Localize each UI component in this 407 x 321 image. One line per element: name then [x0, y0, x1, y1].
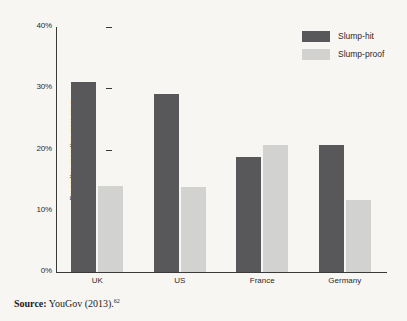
- y-axis-tick-label: 0%: [41, 266, 52, 275]
- y-axis-tick-label: 30%: [37, 82, 52, 91]
- legend-item-slump-hit: Slump-hit: [302, 29, 384, 43]
- x-axis-category-label: France: [221, 276, 304, 285]
- chart-legend: Slump-hit Slump-proof: [302, 29, 384, 65]
- y-axis-tick-label: 40%: [37, 21, 52, 30]
- legend-item-slump-proof: Slump-proof: [302, 47, 384, 61]
- x-axis-category-label: US: [139, 276, 222, 285]
- bar: [154, 94, 179, 272]
- source-footnote: 62: [114, 298, 120, 304]
- source-caption: Source: YouGov (2013).62: [14, 298, 120, 309]
- bar: [71, 82, 96, 272]
- x-axis-category-label: UK: [56, 276, 139, 285]
- bar: [98, 186, 123, 272]
- bar: [319, 145, 344, 272]
- bar-group: France: [221, 27, 304, 272]
- source-prefix: Source:: [14, 298, 47, 309]
- bar: [181, 187, 206, 272]
- y-axis-tick-label: 10%: [37, 205, 52, 214]
- legend-label: Slump-hit: [338, 31, 374, 41]
- legend-label: Slump-proof: [338, 49, 384, 59]
- source-text: YouGov (2013).: [49, 298, 114, 309]
- bar: [346, 200, 371, 272]
- x-axis-category-label: Germany: [304, 276, 387, 285]
- legend-swatch-icon: [302, 49, 330, 60]
- chart-figure: Proportion reporting more rows 0%10%20%3…: [0, 0, 407, 321]
- bar-group: US: [139, 27, 222, 272]
- bar: [263, 145, 288, 272]
- y-axis-tick-mark: [106, 272, 112, 273]
- legend-swatch-icon: [302, 31, 330, 42]
- y-axis-tick-label: 20%: [37, 144, 52, 153]
- bar-group: UK: [56, 27, 139, 272]
- bar: [236, 157, 261, 272]
